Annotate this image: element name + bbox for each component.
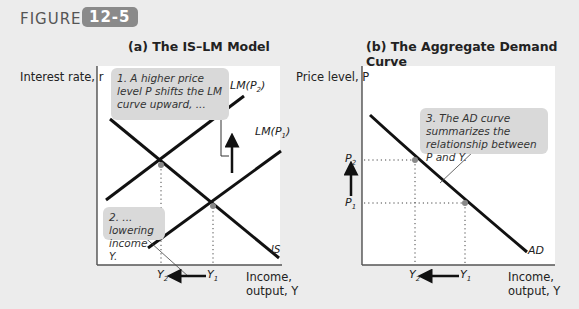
diagram-canvas — [0, 0, 579, 309]
y1-tick-b: Y1 — [460, 268, 471, 283]
y2-tick-b: Y2 — [409, 268, 420, 283]
ad-label: AD — [528, 244, 544, 257]
callout-1: 1. A higher price level P shifts the LM … — [111, 68, 229, 120]
is-label: IS — [271, 244, 280, 255]
panel-a-y-axis-label: Interest rate, r — [20, 70, 103, 84]
p2-tick: P2 — [345, 152, 356, 167]
y2-tick-a: Y2 — [157, 268, 168, 283]
panel-b-x-axis-label: Income,output, Y — [508, 270, 560, 298]
y1-tick-a: Y1 — [207, 268, 218, 283]
lm-p2-label: LM(P2) — [230, 79, 265, 94]
p1-tick: P1 — [345, 196, 356, 211]
callout-3: 3. The AD curve summarizes the relations… — [420, 108, 548, 154]
panel-b-y-axis-label: Price level, P — [296, 70, 369, 84]
panel-a-x-axis-label: Income,output, Y — [246, 270, 298, 298]
lm-p1-label: LM(P1) — [255, 125, 290, 140]
callout-2: 2. ... lowering income Y. — [103, 207, 165, 240]
